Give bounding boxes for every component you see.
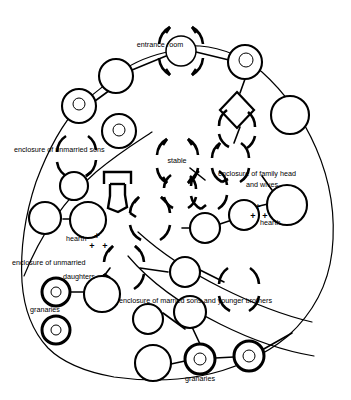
label-enclosure-married-sons: enclosure of married sons and younger br… [119,296,272,305]
ringed-hut [228,45,262,79]
arc-room-centre-upper [130,197,170,240]
hut [29,202,61,234]
label-enclosure-unmarried-daughters-line2: daughters [63,272,95,281]
label-enclosure-unmarried-daughters-line1: enclosure of unmarried [12,258,86,267]
hut [84,276,120,312]
ringed-hut [102,114,136,148]
hut [99,59,133,93]
granary [185,344,215,374]
hut [70,202,106,238]
hut [133,304,163,334]
link-gran-gran [215,357,234,358]
link-entrance-ring [196,52,229,60]
hut [271,96,309,134]
hut [60,172,88,200]
link-bot-gran [171,361,185,364]
hut [190,213,220,243]
label-enclosure-family-head-line1: enclosure of family head [218,169,296,178]
hearth-cross-left-3: + [102,241,107,251]
label-enclosure-unmarried-sons: enclosure of unmarried sons [14,145,105,154]
entrance-room [159,27,203,75]
hearth-cross-right-2: + [250,211,255,221]
compound-plan-diagram: + + + + + + entrance room enclosure of u… [0,0,351,400]
label-enclosure-family-head-line2: and wives [246,180,278,189]
label-stable: stable [167,156,186,165]
label-granaries-bottom: granaries [185,374,215,383]
link-arc-hut-mid [140,268,168,272]
hearth-cross-right-1: + [255,202,260,212]
ringed-hut [62,89,96,123]
label-granaries-left: granaries [30,305,60,314]
hearth-cross-left-2: + [89,241,94,251]
granary [42,278,70,306]
hut [170,257,200,287]
hut [135,345,171,381]
link-hut-gran [192,327,200,344]
granary [234,341,264,371]
compound-plan-svg: + + + + + + entrance room enclosure of u… [0,0,351,400]
label-hearth-left: hearth [66,234,86,243]
granary [42,316,70,344]
hearth-cross-left-1: + [94,231,99,241]
label-hearth-right: hearth [260,218,280,227]
bracket-structure [104,172,131,212]
label-entrance-room: entrance room [137,40,183,49]
link-ring-diamond [240,79,245,93]
